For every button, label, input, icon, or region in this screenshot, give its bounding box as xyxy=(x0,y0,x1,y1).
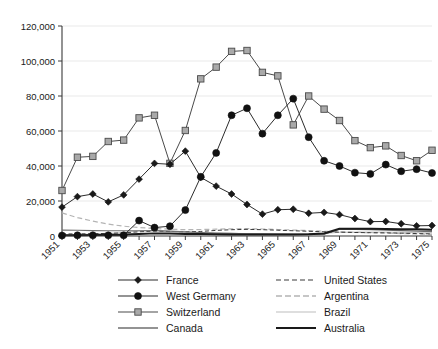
data-point-marker xyxy=(198,76,204,82)
data-point-marker xyxy=(89,232,96,239)
y-axis-tick-label: 40,000 xyxy=(26,161,55,172)
data-point-marker xyxy=(259,211,266,218)
data-point-marker xyxy=(305,134,312,141)
data-point-marker xyxy=(290,95,297,102)
data-point-marker xyxy=(383,143,389,149)
data-point-marker xyxy=(367,218,374,225)
data-point-marker xyxy=(352,137,358,143)
y-axis-tick-label: 100,000 xyxy=(21,56,55,67)
data-point-marker xyxy=(305,93,311,99)
legend-column-left: France West Germany Switzerland Canada xyxy=(116,272,236,336)
legend-key-france xyxy=(116,272,160,288)
data-point-marker xyxy=(151,224,158,231)
data-point-marker xyxy=(429,222,436,229)
y-axis-tick-label: 80,000 xyxy=(26,91,55,102)
data-point-marker xyxy=(59,232,66,239)
legend-key-australia xyxy=(274,320,318,336)
legend-label-australia: Australia xyxy=(318,320,365,336)
line-chart: 020,00040,00060,00080,000100,000120,0001… xyxy=(0,0,438,268)
plot-area: 020,00040,00060,00080,000100,000120,0001… xyxy=(0,0,438,268)
data-point-marker xyxy=(74,232,81,239)
data-point-marker xyxy=(90,153,96,159)
data-point-marker xyxy=(398,168,405,175)
data-point-marker xyxy=(367,170,374,177)
x-axis-tick-label: 1963 xyxy=(224,239,247,262)
data-point-marker xyxy=(274,112,281,119)
series-line xyxy=(62,51,432,191)
x-axis-tick-label: 1971 xyxy=(347,239,370,262)
legend-label-united-states: United States xyxy=(318,272,387,288)
data-point-marker xyxy=(74,193,81,200)
data-point-marker xyxy=(274,206,281,213)
data-point-marker xyxy=(213,64,219,70)
x-axis-tick-label: 1965 xyxy=(255,239,278,262)
series-switzerland xyxy=(59,47,435,193)
data-point-marker xyxy=(197,173,204,180)
legend-item-west-germany: West Germany xyxy=(116,288,236,304)
series-line xyxy=(62,151,432,226)
data-point-marker xyxy=(228,191,235,198)
x-axis-tick-label: 1957 xyxy=(131,239,154,262)
legend-item-argentina: Argentina xyxy=(274,288,387,304)
legend-column-right: United States Argentina Brazil Australia xyxy=(274,272,387,336)
data-point-marker xyxy=(244,47,250,53)
data-point-marker xyxy=(413,222,420,229)
legend-label-canada: Canada xyxy=(160,320,203,336)
data-point-marker xyxy=(213,149,220,156)
data-point-marker xyxy=(429,170,436,177)
legend-item-switzerland: Switzerland xyxy=(116,304,236,320)
data-point-marker xyxy=(275,73,281,79)
data-point-marker xyxy=(336,117,342,123)
data-point-marker xyxy=(59,187,65,193)
x-axis-tick-label: 1959 xyxy=(162,239,185,262)
legend-item-france: France xyxy=(116,272,236,288)
chart-figure: 020,00040,00060,00080,000100,000120,0001… xyxy=(0,0,438,349)
legend-key-united-states xyxy=(274,272,318,288)
data-point-marker xyxy=(151,112,157,118)
legend-label-france: France xyxy=(160,272,199,288)
data-point-marker xyxy=(228,48,234,54)
data-point-marker xyxy=(367,144,373,150)
data-point-marker xyxy=(105,198,112,205)
y-axis-tick-label: 60,000 xyxy=(26,126,55,137)
data-point-marker xyxy=(59,204,66,211)
data-point-marker xyxy=(429,147,435,153)
data-point-marker xyxy=(136,217,143,224)
x-axis-tick-label: 1951 xyxy=(39,239,62,262)
legend-key-canada xyxy=(116,320,160,336)
legend-key-marker xyxy=(135,293,142,300)
data-point-marker xyxy=(351,169,358,176)
legend-key-switzerland xyxy=(116,304,160,320)
data-point-marker xyxy=(321,106,327,112)
data-point-marker xyxy=(182,207,189,214)
data-point-marker xyxy=(136,115,142,121)
data-point-marker xyxy=(105,232,112,239)
x-axis-tick-label: 1969 xyxy=(316,239,339,262)
legend-item-canada: Canada xyxy=(116,320,236,336)
x-axis-tick-label: 1975 xyxy=(409,239,432,262)
data-point-marker xyxy=(259,130,266,137)
series-france xyxy=(59,148,436,230)
y-axis-tick-label: 20,000 xyxy=(26,196,55,207)
data-point-marker xyxy=(382,161,389,168)
x-axis-tick-label: 1955 xyxy=(100,239,123,262)
legend-label-argentina: Argentina xyxy=(318,288,369,304)
series-line xyxy=(62,99,432,236)
x-axis-tick-label: 1967 xyxy=(285,239,308,262)
data-point-marker xyxy=(74,154,80,160)
data-point-marker xyxy=(213,183,220,190)
x-axis-tick-label: 1961 xyxy=(193,239,216,262)
x-axis-tick-label: 1953 xyxy=(70,239,93,262)
legend-item-united-states: United States xyxy=(274,272,387,288)
legend-key-brazil xyxy=(274,304,318,320)
data-point-marker xyxy=(398,220,405,227)
series-west-germany xyxy=(59,95,436,239)
data-point-marker xyxy=(182,127,188,133)
data-point-marker xyxy=(244,105,251,112)
data-point-marker xyxy=(413,158,419,164)
data-point-marker xyxy=(120,137,126,143)
legend-label-switzerland: Switzerland xyxy=(160,304,220,320)
legend-key-west-germany xyxy=(116,288,160,304)
data-point-marker xyxy=(305,210,312,217)
legend-item-brazil: Brazil xyxy=(274,304,387,320)
